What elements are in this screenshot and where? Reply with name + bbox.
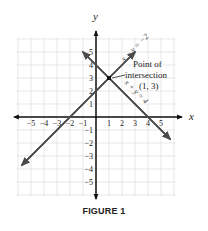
x-tick-label: 2 xyxy=(120,119,124,128)
x-tick-label: 3 xyxy=(133,119,137,128)
x-tick-label: −5 xyxy=(27,119,36,128)
y-tick-label: −5 xyxy=(84,178,93,187)
coordinate-plane-figure: −5−4−3−2−11234554321−1−2−3−4−5 x y x − y… xyxy=(0,0,208,231)
annotation-point-coords: (1, 3) xyxy=(139,81,159,91)
x-tick-label: 5 xyxy=(159,119,163,128)
axes xyxy=(14,31,182,199)
annotation-point-of: Point of xyxy=(133,59,162,69)
y-tick-label: 3 xyxy=(89,74,93,83)
annotation-intersection: intersection xyxy=(125,70,167,80)
y-axis-label: y xyxy=(92,10,98,22)
x-tick-label: 4 xyxy=(146,119,150,128)
x-axis-label: x xyxy=(188,110,194,122)
y-tick-label: −2 xyxy=(84,139,93,148)
y-tick-label: −1 xyxy=(84,126,93,135)
y-tick-label: −3 xyxy=(84,152,93,161)
intersection-point xyxy=(107,76,111,80)
y-tick-label: 1 xyxy=(89,100,93,109)
x-tick-label: −4 xyxy=(40,119,49,128)
y-tick-label: 5 xyxy=(89,48,93,57)
y-tick-label: −4 xyxy=(84,165,93,174)
figure-caption: FIGURE 1 xyxy=(0,206,208,216)
x-tick-label: 1 xyxy=(107,119,111,128)
line-1-reverse xyxy=(22,52,135,165)
annotation-leader xyxy=(112,75,125,78)
